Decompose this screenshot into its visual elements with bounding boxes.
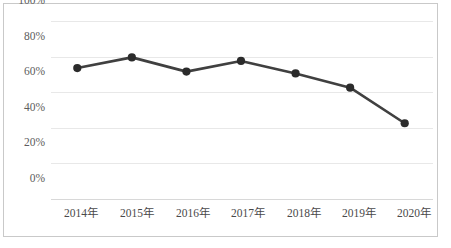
chart-screenshot: 100% 80% 60% 40% 20% 0% 2014年 2015年 2016… [0,0,451,248]
data-point-2014年 [73,64,81,72]
data-point-2016年 [182,68,190,76]
data-point-2019年 [346,84,354,92]
line-series [0,0,451,248]
data-point-2020年 [401,119,409,127]
series-line-path [77,57,404,123]
data-point-2018年 [291,69,299,77]
data-point-2017年 [237,57,245,65]
data-point-2015年 [128,53,136,61]
series-markers [73,53,409,127]
